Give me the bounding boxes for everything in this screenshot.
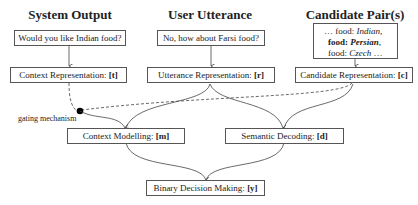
- dashed-context-gating: [69, 83, 78, 112]
- gating-mechanism-label: gating mechanism: [18, 114, 76, 123]
- candidate-item-selected: food: Persian,: [324, 37, 397, 48]
- system-utterance-text: Would you like Indian food?: [18, 33, 121, 43]
- utterance-representation-node: Utterance Representation: [r]: [147, 67, 275, 83]
- candidate-item: food: Czech …: [324, 48, 397, 59]
- user-utterance-text: No, how about Farsi food?: [163, 33, 259, 43]
- candidate-pairs-box: … food: Indian, food: Persian, food: Cze…: [313, 23, 398, 59]
- candidate-item: … food: Indian,: [324, 26, 397, 37]
- header-user-utterance: User Utterance: [160, 7, 260, 23]
- context-modelling-node: Context Modelling: [m]: [67, 128, 185, 144]
- binary-decision-node: Binary Decision Making: [y]: [146, 180, 265, 196]
- dashed-cand-gating: [82, 83, 352, 110]
- user-utterance-box: No, how about Farsi food?: [157, 30, 265, 46]
- semantic-decoding-node: Semantic Decoding: [d]: [225, 128, 344, 144]
- context-representation-node: Context Representation: [t]: [10, 67, 127, 83]
- candidate-representation-node: Candidate Representation: [c]: [295, 67, 413, 83]
- header-system-output: System Output: [20, 7, 120, 23]
- header-candidate-pairs: Candidate Pair(s): [300, 7, 410, 23]
- system-utterance-box: Would you like Indian food?: [14, 30, 126, 46]
